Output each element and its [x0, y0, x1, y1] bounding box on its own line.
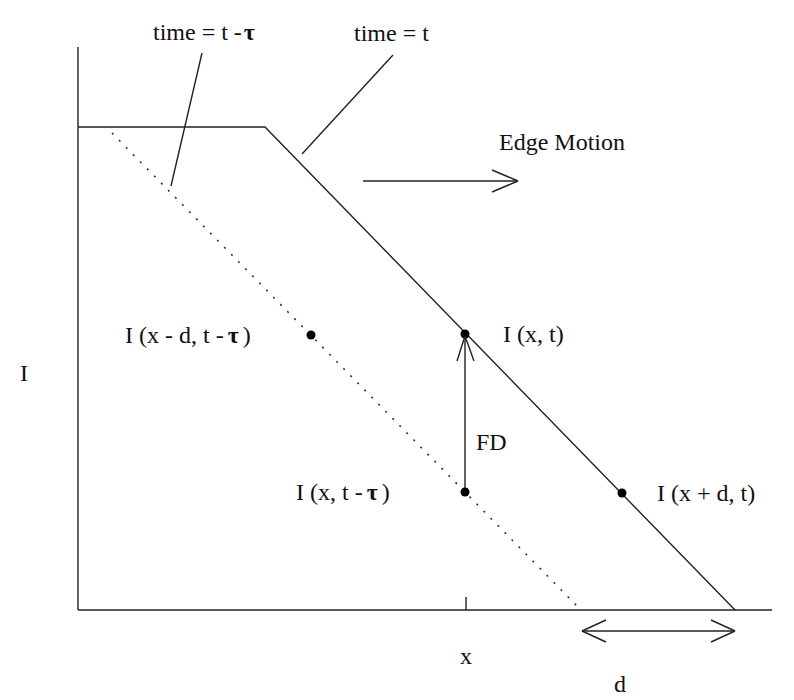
- point-prev-same-x: [461, 488, 470, 497]
- frame-difference-label: FD: [476, 429, 507, 455]
- edge-motion-diagram: time = t -τ time = t Edge Motion I I (x …: [0, 0, 794, 700]
- edge-motion-label: Edge Motion: [499, 129, 625, 155]
- curr-time-label: time = t: [354, 20, 429, 46]
- y-axis-label: I: [20, 360, 28, 386]
- displacement-label: d: [614, 671, 626, 697]
- point-current-label: I (x, t): [503, 321, 564, 347]
- point-prev-same-x-label: I (x, t -τ): [296, 479, 390, 505]
- edge-profile-time-t-minus-tau: [112, 133, 578, 607]
- prev-time-label: time = t -τ: [153, 19, 255, 45]
- edge-motion-arrow-icon: [363, 170, 518, 192]
- leader-line-curr-time: [302, 55, 393, 154]
- edge-profile-time-t: [78, 127, 735, 610]
- point-current-shifted-label: I (x + d, t): [657, 480, 755, 506]
- point-prev-shifted: [307, 331, 316, 340]
- point-current-shifted: [618, 489, 627, 498]
- point-prev-shifted-label: I (x - d, t -τ): [125, 322, 251, 348]
- frame-difference-arrow-icon: [457, 336, 474, 492]
- displacement-arrow-icon: [582, 620, 735, 642]
- leader-line-prev-time: [171, 53, 202, 186]
- x-axis-label: x: [460, 643, 472, 669]
